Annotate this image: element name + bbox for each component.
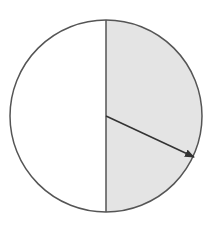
half-shaded-circle-diagram — [0, 0, 219, 226]
circle-shaded-half — [106, 20, 202, 212]
